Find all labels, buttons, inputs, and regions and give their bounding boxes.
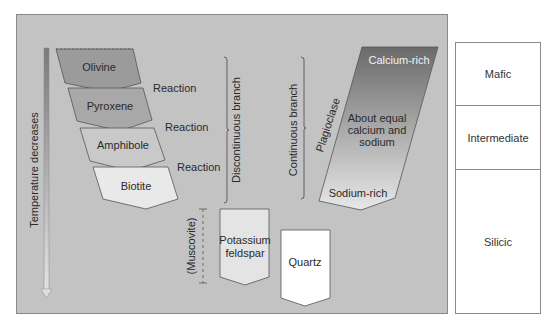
composition-row-intermediate: Intermediate: [456, 105, 540, 169]
pyroxene-label: Pyroxene: [87, 100, 133, 113]
composition-row-label: Silicic: [484, 236, 512, 248]
biotite-label: Biotite: [121, 180, 152, 193]
calcium-rich-label: Calcium-rich: [368, 54, 429, 67]
quartz-label: Quartz: [288, 256, 321, 269]
sodium-rich-label: Sodium-rich: [329, 187, 388, 200]
continuous-branch-label: Continuous branch: [287, 84, 300, 176]
muscovite-range-marker: [199, 209, 207, 283]
potassium-feldspar-label-line1: Potassium: [219, 234, 270, 247]
reaction-label-3: Reaction: [177, 161, 220, 174]
temperature-arrow-label: Temperature decreases: [28, 112, 41, 228]
reaction-label-2: Reaction: [165, 121, 208, 134]
discontinuous-brace: [224, 57, 229, 203]
composition-row-label: Intermediate: [467, 132, 528, 144]
composition-row-label: Mafic: [485, 68, 511, 80]
potassium-feldspar-label-line2: feldspar: [225, 247, 264, 260]
muscovite-label: (Muscovite): [185, 218, 198, 275]
discontinuous-branch-label: Discontinuous branch: [230, 77, 243, 183]
reaction-label-1: Reaction: [153, 82, 196, 95]
olivine-label: Olivine: [82, 61, 116, 74]
amphibole-label: Amphibole: [97, 139, 149, 152]
composition-row-silicic: Silicic: [456, 169, 540, 313]
continuous-brace: [301, 57, 306, 199]
about-equal-label-line3: sodium: [359, 136, 394, 149]
temperature-arrow-icon: [41, 48, 52, 298]
composition-row-mafic: Mafic: [456, 43, 540, 105]
composition-table: Mafic Intermediate Silicic: [455, 42, 541, 314]
